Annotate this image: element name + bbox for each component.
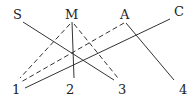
- node-label-M: M: [65, 8, 78, 21]
- node-label-S: S: [13, 8, 22, 21]
- edge-M-2: [72, 22, 74, 78]
- node-label-1: 1: [12, 83, 20, 96]
- edge-S-3: [23, 22, 114, 80]
- node-label-3: 3: [118, 83, 126, 96]
- edge-A-4: [126, 23, 174, 80]
- diagram-canvas: [0, 0, 194, 100]
- node-label-C: C: [174, 5, 184, 18]
- edge-C-1: [25, 19, 170, 88]
- node-label-4: 4: [179, 83, 187, 96]
- node-label-A: A: [120, 8, 129, 21]
- edge-M-3: [74, 24, 118, 78]
- node-label-2: 2: [66, 83, 74, 96]
